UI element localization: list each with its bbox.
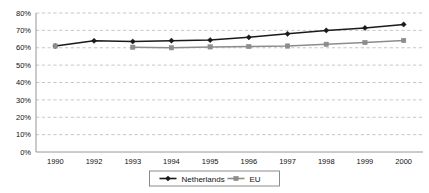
series-markers — [53, 22, 407, 50]
data-point-eu-1997 — [285, 44, 289, 48]
x-tick-label: 1992 — [86, 157, 103, 166]
x-tick-label: 1997 — [279, 157, 296, 166]
x-tick-label: 1995 — [202, 157, 219, 166]
chart-legend: NetherlandsEU — [150, 171, 280, 186]
x-tick-label: 2000 — [395, 157, 412, 166]
y-tick-label: 70% — [16, 26, 31, 35]
x-tick-label: 1998 — [318, 157, 335, 166]
x-tick-label: 1994 — [163, 157, 180, 166]
data-point-eu-1996 — [247, 44, 251, 48]
data-point-netherlands-2000 — [401, 22, 406, 27]
data-point-netherlands-1995 — [208, 38, 213, 43]
data-point-netherlands-1999 — [362, 25, 367, 30]
legend-marker-eu — [234, 176, 238, 180]
y-tick-label: 40% — [16, 78, 31, 87]
y-tick-label: 10% — [16, 130, 31, 139]
grid-lines — [36, 13, 423, 135]
chart-canvas: 0%10%20%30%40%50%60%70%80% 1990199219931… — [0, 0, 429, 193]
data-point-netherlands-1996 — [246, 35, 251, 40]
line-chart: 0%10%20%30%40%50%60%70%80% 1990199219931… — [0, 0, 429, 193]
x-tick-label: 1993 — [124, 157, 141, 166]
y-axis-tick-labels: 0%10%20%30%40%50%60%70%80% — [16, 9, 31, 157]
data-point-netherlands-1993 — [130, 39, 135, 44]
chart-plot-area: 0%10%20%30%40%50%60%70%80% 1990199219931… — [0, 0, 429, 193]
data-point-eu-1995 — [208, 45, 212, 49]
series-lines — [55, 24, 403, 47]
data-point-eu-1994 — [169, 46, 173, 50]
data-point-eu-1990 — [53, 44, 57, 48]
y-tick-label: 80% — [16, 9, 31, 18]
data-point-eu-2000 — [401, 38, 405, 42]
data-point-netherlands-1997 — [285, 31, 290, 36]
legend-label-netherlands: Netherlands — [182, 175, 225, 184]
x-tick-label: 1996 — [241, 157, 258, 166]
legend-label-eu: EU — [250, 175, 261, 184]
data-point-eu-1993 — [131, 45, 135, 49]
x-tick-label: 1999 — [357, 157, 374, 166]
x-tick-label: 1990 — [47, 157, 64, 166]
data-point-eu-1999 — [363, 40, 367, 44]
data-point-netherlands-1994 — [169, 38, 174, 43]
y-tick-label: 20% — [16, 113, 31, 122]
data-point-netherlands-1998 — [324, 28, 329, 33]
y-tick-label: 30% — [16, 96, 31, 105]
y-tick-label: 0% — [20, 148, 31, 157]
x-axis-tick-labels: 1990199219931994199519961997199819992000 — [47, 157, 412, 166]
data-point-netherlands-1992 — [91, 38, 96, 43]
y-tick-label: 50% — [16, 61, 31, 70]
data-point-eu-1998 — [324, 42, 328, 46]
y-tick-label: 60% — [16, 43, 31, 52]
